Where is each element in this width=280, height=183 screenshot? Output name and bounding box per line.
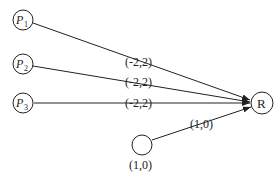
node-p3: P 3	[13, 93, 33, 113]
svg-text:3: 3	[24, 103, 28, 112]
svg-text:1: 1	[24, 20, 28, 29]
svg-text:P: P	[15, 13, 24, 27]
node-p1: P 1	[13, 10, 33, 30]
edge-label-p2-r: (-2,2)	[125, 75, 152, 89]
edge-label-p3-r: (-2,2)	[125, 96, 152, 110]
node-p2: P 2	[13, 54, 33, 74]
node-r: R	[251, 92, 273, 114]
diagram-canvas: (-2,2) (-2,2) (-2,2) (1,0) P 1 P 2 P 3 R…	[0, 0, 280, 183]
edge-label-b-r: (1,0)	[190, 117, 213, 131]
svg-text:P: P	[15, 96, 24, 110]
svg-text:2: 2	[24, 64, 28, 73]
svg-text:R: R	[257, 96, 266, 111]
svg-text:P: P	[15, 57, 24, 71]
edge-label-p1-r: (-2,2)	[125, 55, 152, 69]
node-bottom: (1,0)	[129, 135, 152, 172]
node-bottom-caption: (1,0)	[129, 158, 152, 172]
